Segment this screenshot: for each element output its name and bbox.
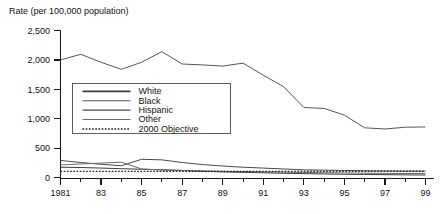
y-tick-label: 0 xyxy=(45,173,50,183)
x-tick-label: 99 xyxy=(420,188,430,198)
x-tick-label: 91 xyxy=(258,188,268,198)
y-axis-ticks: 05001,0001,5002,0002,500 xyxy=(27,26,60,183)
x-tick-label: 85 xyxy=(137,188,147,198)
y-tick-label: 2,500 xyxy=(27,26,50,36)
chart-plot-area: 05001,0001,5002,0002,500 198183858789919… xyxy=(0,0,445,214)
chart-legend[interactable]: WhiteBlackHispanicOther2000 Objective xyxy=(73,84,231,134)
y-tick-label: 1,000 xyxy=(27,114,50,124)
y-tick-label: 500 xyxy=(35,143,50,153)
y-tick-label: 2,000 xyxy=(27,55,50,65)
x-tick-label: 83 xyxy=(96,188,106,198)
x-tick-label: 87 xyxy=(177,188,187,198)
legend-label-2000-objective[interactable]: 2000 Objective xyxy=(139,124,199,134)
x-tick-label: 95 xyxy=(339,188,349,198)
x-tick-label: 93 xyxy=(299,188,309,198)
chart-figure: Rate (per 100,000 population) 05001,0001… xyxy=(0,0,445,214)
x-tick-label: 89 xyxy=(218,188,228,198)
x-tick-label: 1981 xyxy=(50,188,70,198)
series-line-hispanic xyxy=(61,159,426,171)
y-tick-label: 1,500 xyxy=(27,85,50,95)
x-axis-ticks: 1981838587899193959799 xyxy=(50,179,430,199)
x-tick-label: 97 xyxy=(380,188,390,198)
